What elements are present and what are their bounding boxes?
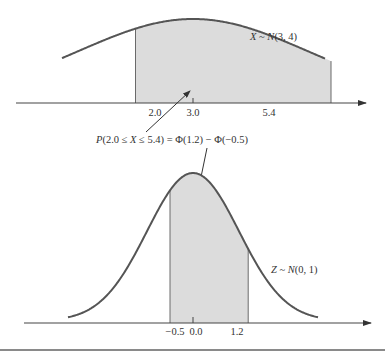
- top-tick-5-4: 5.4: [262, 107, 275, 119]
- bottom-chart: [24, 173, 371, 323]
- bottom-label-tilde: ~: [277, 264, 288, 275]
- bottom-distribution-label: Z ~ N(0, 1): [271, 264, 318, 276]
- bottom-shaded-area: [170, 173, 248, 323]
- annotation-part2: ≤ 5.4) = Φ(1.2) − Φ(−0.5): [136, 134, 248, 145]
- bottom-tick-0-0: 0.0: [189, 326, 202, 338]
- bottom-label-n: N: [288, 264, 295, 275]
- top-chart: [16, 19, 366, 103]
- bottom-divider-rule: [0, 349, 385, 351]
- bottom-tick-1-2: 1.2: [230, 326, 243, 338]
- top-shaded-area: [136, 19, 332, 103]
- top-label-params: (3, 4): [274, 31, 297, 42]
- annotation-part1: (2.0 ≤: [102, 134, 130, 145]
- figure: X ~ N(3, 4) 2.0 3.0 5.4 P(2.0 ≤ X ≤ 5.4)…: [0, 0, 385, 353]
- top-tick-2-0: 2.0: [148, 107, 161, 119]
- top-distribution-label: X ~ N(3, 4): [250, 31, 297, 43]
- top-label-tilde: ~: [256, 31, 267, 42]
- top-tick-3-0: 3.0: [186, 107, 199, 119]
- bottom-label-params: (0, 1): [295, 264, 318, 275]
- normal-curves-plot: [0, 0, 385, 353]
- probability-annotation: P(2.0 ≤ X ≤ 5.4) = Φ(1.2) − Φ(−0.5): [96, 134, 248, 146]
- bottom-tick-neg-0-5: −0.5: [165, 326, 184, 338]
